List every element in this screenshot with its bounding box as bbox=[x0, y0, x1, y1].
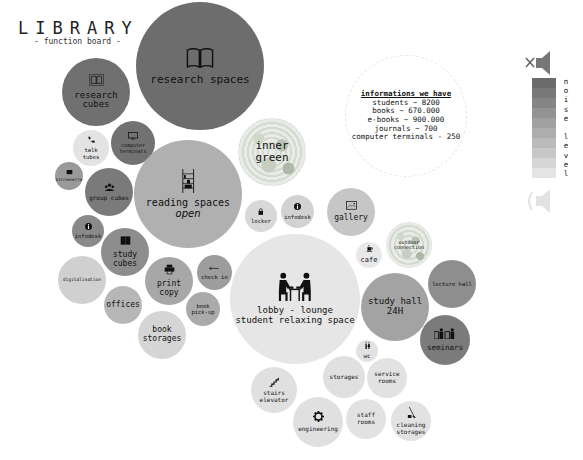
open-book-icon bbox=[186, 46, 214, 71]
bubble-label: storages bbox=[330, 374, 359, 381]
noise-level-swatch bbox=[532, 98, 556, 108]
bubble-talk-tubes: talk tubes bbox=[73, 130, 109, 166]
bubble-service-rooms: service rooms bbox=[367, 358, 407, 398]
bubble-check-in: check in bbox=[197, 255, 232, 290]
bubble-kitchenette: kitchenette bbox=[55, 162, 83, 190]
bubble-group-cubes: group cubes bbox=[85, 168, 133, 216]
bubble-label: cleaning storages bbox=[397, 422, 426, 435]
bubble-label: locker bbox=[251, 218, 271, 224]
bubble-label: book pick-up bbox=[191, 303, 214, 315]
bubble-cafe: cafe bbox=[356, 242, 382, 268]
bookshelf-ladder-icon bbox=[181, 169, 195, 195]
bubble-label: book storages bbox=[143, 326, 182, 344]
bubble-book-pickup: book pick-up bbox=[186, 292, 220, 326]
bubble-label: reading spaces bbox=[146, 197, 230, 208]
bubble-label: gallery bbox=[334, 214, 368, 223]
book-icon bbox=[89, 74, 104, 89]
noise-level-swatch bbox=[532, 108, 556, 118]
noise-level-label: n o i s e l e v e l bbox=[562, 77, 570, 178]
bubble-label: research spaces bbox=[150, 74, 249, 86]
bubble-label: research cubes bbox=[74, 91, 117, 111]
bubble-label: study cubes bbox=[113, 251, 137, 269]
monitor-icon bbox=[128, 132, 138, 142]
bubble-label: staff rooms bbox=[357, 412, 375, 425]
noise-level-swatch bbox=[532, 168, 556, 178]
noise-level-swatch bbox=[532, 78, 556, 88]
coffee-icon bbox=[366, 245, 373, 255]
phone-icon bbox=[87, 136, 95, 145]
noise-level-swatch bbox=[532, 118, 556, 128]
bubble-label: stairs elevator bbox=[260, 390, 289, 403]
bubble-label: digitalisation bbox=[63, 278, 101, 283]
info-line: computer terminals - 250 bbox=[352, 133, 460, 142]
noise-level-swatch bbox=[532, 158, 556, 168]
info-bubble: informations we have students ~ 8200 boo… bbox=[345, 55, 467, 177]
bubble-label: offices bbox=[106, 301, 140, 310]
bubble-stairs-elevator: stairs elevator bbox=[251, 367, 297, 413]
bubble-storages: storages bbox=[323, 356, 365, 398]
bubble-label: group cubes bbox=[89, 195, 129, 202]
bubble-outdoor-connection: outdoor connection bbox=[386, 222, 432, 268]
bubble-inner-green: inner green bbox=[238, 118, 306, 186]
bubble-digitalisation: digitalisation bbox=[58, 256, 106, 304]
bubble-label: wc bbox=[363, 353, 370, 360]
cubes-icon bbox=[120, 235, 131, 249]
bubble-research-spaces: research spaces bbox=[136, 2, 264, 130]
page-title: LIBRARY bbox=[18, 18, 139, 38]
bubble-lecture-hall: lecture hall bbox=[428, 260, 476, 308]
presenter-icon bbox=[434, 328, 456, 341]
noise-level-swatch bbox=[532, 138, 556, 148]
bubble-staff-rooms: staff rooms bbox=[346, 399, 386, 439]
bubble-gallery: gallery bbox=[327, 188, 375, 236]
bubble-label: inner green bbox=[255, 140, 288, 164]
bubble-label: lobby - lounge student relaxing space bbox=[235, 306, 354, 326]
bubble-locker: locker bbox=[245, 200, 277, 232]
bubble-label: study hall 24H bbox=[368, 297, 422, 317]
speaker-sound-icon bbox=[524, 188, 560, 214]
cup-icon bbox=[66, 170, 73, 176]
image-icon bbox=[346, 201, 357, 213]
bubble-study-hall: study hall 24H bbox=[361, 273, 429, 341]
bubble-label: cafe bbox=[361, 257, 378, 265]
bubble-infodesk-center: infodesk bbox=[281, 195, 314, 228]
bubble-seminars: seminars bbox=[420, 315, 470, 365]
bubble-label: outdoor connection bbox=[394, 240, 424, 251]
bubble-label: lecture hall bbox=[432, 281, 472, 287]
bubble-label: kitchenette bbox=[56, 178, 83, 182]
group-icon bbox=[104, 183, 115, 193]
gear-icon bbox=[313, 411, 324, 424]
noise-level-swatch bbox=[532, 128, 556, 138]
bubble-lobby-lounge: lobby - lounge student relaxing space bbox=[230, 234, 360, 364]
printer-icon bbox=[164, 264, 175, 278]
stairs-icon bbox=[269, 377, 279, 389]
bubble-label: check in bbox=[201, 274, 228, 280]
broom-icon bbox=[407, 407, 416, 420]
info-icon bbox=[85, 223, 92, 231]
page-subtitle: - function board - bbox=[34, 37, 121, 46]
bubble-engineering: engineering bbox=[293, 397, 343, 447]
bubble-label: seminars bbox=[427, 344, 463, 352]
restroom-icon bbox=[364, 342, 371, 351]
bubble-reading-spaces: reading spacesopen bbox=[134, 140, 242, 248]
noise-level-scale bbox=[532, 78, 556, 178]
bubble-label: computer terminals bbox=[119, 143, 146, 154]
bubble-infodesk-left: infodesk bbox=[72, 215, 104, 247]
bubble-label: engineering bbox=[298, 426, 338, 433]
bubble-sublabel: open bbox=[176, 208, 201, 219]
bubble-label: print copy bbox=[157, 280, 181, 298]
speaker-muted-icon bbox=[522, 50, 558, 76]
noise-level-swatch bbox=[532, 88, 556, 98]
meeting-people-icon bbox=[276, 272, 314, 304]
bubble-label: infodesk bbox=[284, 214, 311, 220]
noise-level-swatch bbox=[532, 148, 556, 158]
bubble-study-cubes: study cubes bbox=[101, 228, 149, 276]
lock-icon bbox=[258, 208, 264, 216]
bubble-research-cubes: research cubes bbox=[62, 58, 130, 126]
bubble-label: talk tubes bbox=[83, 147, 100, 159]
bubble-offices: offices bbox=[104, 286, 142, 324]
bubble-book-storages: book storages bbox=[138, 311, 186, 359]
bubble-print-copy: print copy bbox=[145, 257, 193, 305]
bubble-wc: wc bbox=[356, 340, 378, 362]
info-icon bbox=[294, 203, 301, 211]
arrow-left-icon bbox=[209, 265, 219, 271]
